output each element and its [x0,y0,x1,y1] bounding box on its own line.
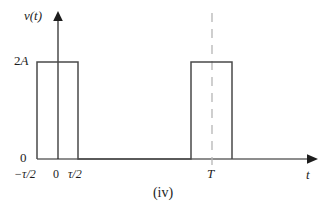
amplitude-tick-label: 2A [14,54,28,67]
zero-tick-label: 0 [20,151,27,164]
x-axis-label: t [306,168,310,181]
amplitude-symbol: A [21,53,29,68]
figure-container: v(t) 2A 0 −τ/2 0 τ/2 T t (iv) [0,0,326,212]
y-axis [53,11,63,159]
pulse-train-waveform [37,62,232,159]
x-tick-label-neg-tau-half: −τ/2 [14,168,36,180]
figure-caption: (iv) [0,186,326,200]
x-tick-label-pos-tau-half: τ/2 [68,168,82,180]
y-axis-label: v(t) [24,9,42,22]
waveform-plot [0,0,326,212]
y-axis-arrowhead [53,11,63,21]
x-tick-label-period: T [207,167,214,180]
x-axis-arrowhead [307,154,318,164]
x-tick-label-origin: 0 [53,168,59,180]
